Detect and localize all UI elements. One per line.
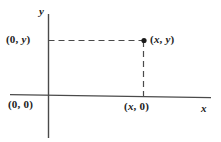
plotted-point-marker: [141, 38, 146, 43]
label-origin: (0, 0): [8, 99, 33, 110]
label-point: (x, y): [150, 34, 174, 45]
coordinate-plane-figure: (0, y) (x, y) (0, 0) (x, 0) y x: [0, 0, 221, 142]
x-axis-label: x: [201, 103, 207, 114]
x-axis-line: [10, 95, 211, 98]
label-y-intercept: (0, y): [6, 34, 30, 45]
y-axis-label: y: [39, 6, 44, 17]
label-x-intercept: (x, 0): [124, 101, 149, 112]
axes-and-guides-graphic: [0, 0, 221, 142]
